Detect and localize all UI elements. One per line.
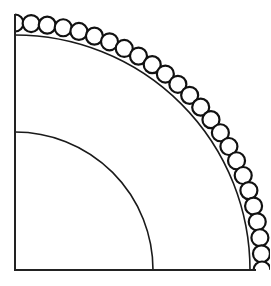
bead-circle — [245, 198, 262, 215]
bead-circle — [23, 15, 40, 32]
bead-circle — [249, 213, 266, 230]
bead-circle — [240, 182, 257, 199]
bead-circle — [251, 229, 268, 246]
inner-arc — [15, 132, 153, 270]
bead-circle — [70, 23, 87, 40]
bead-circle — [55, 19, 72, 36]
middle-arc — [15, 35, 250, 270]
bead-ring — [7, 15, 271, 279]
bead-circle — [253, 245, 270, 262]
bead-circle — [39, 17, 56, 34]
quarter-circle-diagram — [0, 0, 270, 286]
